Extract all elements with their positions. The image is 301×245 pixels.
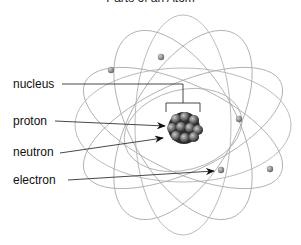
electron-icon [158, 54, 164, 60]
neutron-arrow [60, 138, 163, 153]
proton-arrow [55, 121, 165, 126]
electron-icon [108, 67, 114, 73]
electron-icon [218, 167, 224, 173]
nucleus-icon [167, 112, 203, 144]
atom-diagram [0, 0, 301, 245]
nucleus-bracket [166, 103, 200, 112]
electron-icon [267, 166, 273, 172]
electron-icon [236, 116, 242, 122]
